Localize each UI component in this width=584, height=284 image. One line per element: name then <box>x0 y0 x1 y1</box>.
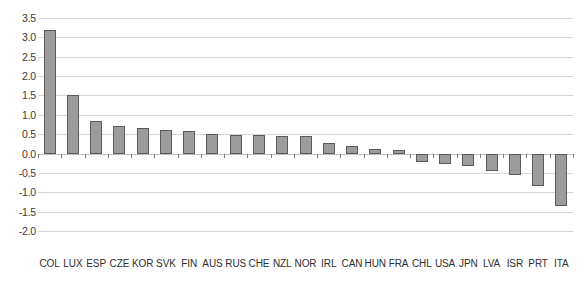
x-axis-tick-mark <box>526 154 527 158</box>
bar <box>160 130 172 154</box>
y-axis-tick-label: -1.0 <box>2 187 36 197</box>
bar <box>393 150 405 154</box>
x-axis-tick-mark <box>38 154 39 158</box>
x-axis-tick-label: ESP <box>86 258 106 270</box>
x-axis-tick-mark <box>433 154 434 158</box>
x-axis-tick-label: PRT <box>528 258 548 270</box>
x-axis-tick-label: AUS <box>202 258 222 270</box>
y-axis-tick-label: 2.0 <box>2 71 36 81</box>
bar <box>555 154 567 206</box>
x-axis-tick-mark <box>154 154 155 158</box>
x-axis-tick-label: KOR <box>132 258 153 270</box>
x-axis-tick-mark <box>457 154 458 158</box>
x-axis-tick-label: USA <box>435 258 455 270</box>
x-axis-tick-label: CHL <box>412 258 432 270</box>
x-axis-tick-label: FRA <box>389 258 409 270</box>
y-axis-tick-label: 2.5 <box>2 52 36 62</box>
x-axis-tick-label: JPN <box>459 258 478 270</box>
x-axis-tick-mark <box>85 154 86 158</box>
x-axis-tick-mark <box>573 154 574 158</box>
bar <box>439 154 451 164</box>
y-axis-tick-labels: 3.53.02.52.01.51.00.50.0-0.5-1.0-1.5-2.0 <box>0 18 36 231</box>
x-axis-tick-label: HUN <box>365 258 386 270</box>
bar <box>113 126 125 154</box>
bar <box>462 154 474 167</box>
bar <box>532 154 544 187</box>
x-axis-tick-label: COL <box>39 258 59 270</box>
x-axis-tick-label: ITA <box>554 258 569 270</box>
x-axis-tick-label: RUS <box>225 258 246 270</box>
bar <box>416 154 428 163</box>
bar <box>509 154 521 175</box>
x-axis-tick-label: IRL <box>321 258 336 270</box>
bar <box>253 135 265 153</box>
x-axis-tick-label: NZL <box>273 258 292 270</box>
bars-layer <box>38 18 573 231</box>
x-axis-tick-label: NOR <box>295 258 317 270</box>
x-axis-tick-label: SVK <box>156 258 176 270</box>
y-axis-tick-label: 3.0 <box>2 32 36 42</box>
x-axis-tick-mark <box>131 154 132 158</box>
bar <box>346 146 358 154</box>
bar <box>206 134 218 153</box>
x-axis-tick-mark <box>364 154 365 158</box>
x-axis-tick-mark <box>340 154 341 158</box>
y-axis-tick-label: -0.5 <box>2 168 36 178</box>
bar <box>67 95 79 154</box>
x-axis-tick-mark <box>294 154 295 158</box>
bar <box>137 128 149 154</box>
y-axis-tick-label: 3.5 <box>2 13 36 23</box>
bar <box>486 154 498 171</box>
bar <box>323 143 335 154</box>
x-axis-tick-label: CAN <box>342 258 363 270</box>
bar <box>369 149 381 154</box>
gridline <box>38 231 573 232</box>
x-axis-tick-mark <box>201 154 202 158</box>
x-axis-tick-label: LVA <box>483 258 500 270</box>
x-axis-tick-mark <box>247 154 248 158</box>
x-axis-tick-mark <box>387 154 388 158</box>
x-axis-tick-mark <box>550 154 551 158</box>
x-axis-tick-mark <box>178 154 179 158</box>
x-axis-tick-label: CHE <box>249 258 270 270</box>
x-axis-tick-labels: COLLUXESPCZEKORSVKFINAUSRUSCHENZLNORIRLC… <box>38 258 573 274</box>
x-axis-tick-mark <box>61 154 62 158</box>
x-axis-tick-mark <box>317 154 318 158</box>
x-axis-tick-mark <box>271 154 272 158</box>
bar <box>276 136 288 154</box>
bar-chart: 3.53.02.52.01.51.00.50.0-0.5-1.0-1.5-2.0… <box>0 0 584 284</box>
bar <box>183 131 195 153</box>
bar <box>300 136 312 153</box>
y-axis-tick-label: -2.0 <box>2 226 36 236</box>
y-axis-tick-label: 0.5 <box>2 129 36 139</box>
bar <box>90 121 102 154</box>
bar <box>44 30 56 154</box>
x-axis-tick-mark <box>410 154 411 158</box>
y-axis-tick-label: 1.5 <box>2 90 36 100</box>
x-axis-tick-label: CZE <box>110 258 130 270</box>
x-axis-tick-label: LUX <box>63 258 82 270</box>
y-axis-tick-label: 1.0 <box>2 110 36 120</box>
x-axis-tick-mark <box>224 154 225 158</box>
bar <box>230 135 242 154</box>
y-axis-tick-label: -1.5 <box>2 207 36 217</box>
x-axis-tick-mark <box>108 154 109 158</box>
x-axis-tick-label: FIN <box>181 258 197 270</box>
x-axis-tick-label: ISR <box>507 258 523 270</box>
x-axis-tick-mark <box>503 154 504 158</box>
x-axis-tick-mark <box>480 154 481 158</box>
y-axis-tick-label: 0.0 <box>2 149 36 159</box>
